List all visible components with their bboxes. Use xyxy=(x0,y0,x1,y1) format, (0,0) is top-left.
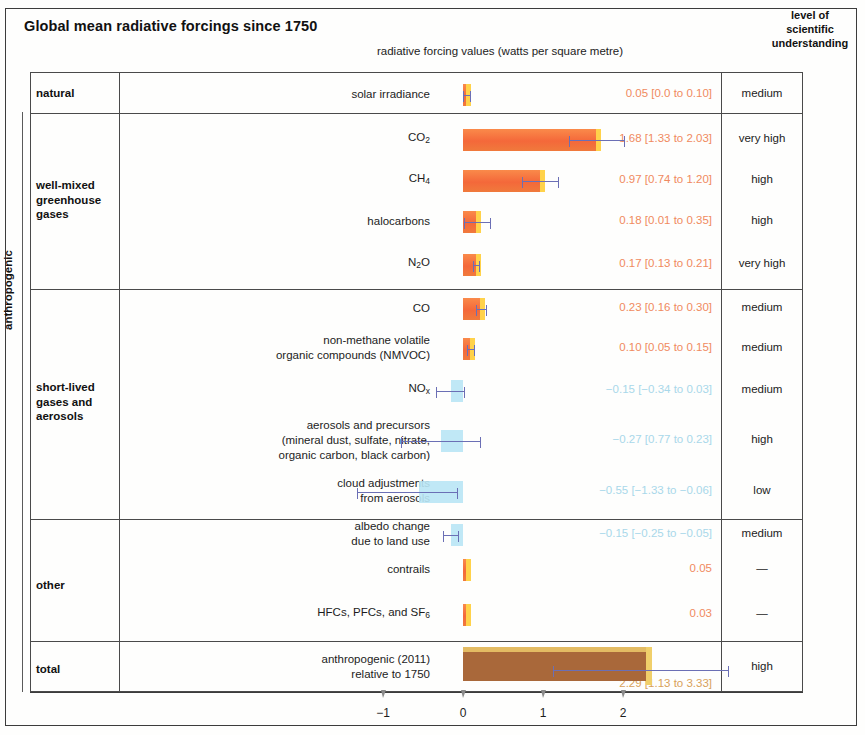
row-value: 0.23 [0.16 to 0.30] xyxy=(500,301,712,313)
x-axis-tick-label: −1 xyxy=(363,706,403,720)
row-value: 0.05 xyxy=(500,562,712,574)
row-name: NOx xyxy=(130,381,430,399)
row-value: −0.15 [−0.34 to 0.03] xyxy=(500,383,712,395)
row-level-of-scientific-understanding: medium xyxy=(724,527,800,539)
row-level-of-scientific-understanding: very high xyxy=(724,132,800,144)
row-value: 0.10 [0.05 to 0.15] xyxy=(500,341,712,353)
row-value: 1.68 [1.33 to 2.03] xyxy=(500,132,712,144)
row-value: −0.27 [0.77 to 0.23] xyxy=(500,433,712,445)
row-level-of-scientific-understanding: medium xyxy=(724,341,800,353)
anthropogenic-bracket-label: anthropogenic xyxy=(2,250,14,330)
lou-header-line-2: scientific xyxy=(760,22,860,36)
group-label-well-mixed-greenhouse-gases: well-mixed greenhouse gases xyxy=(36,178,116,222)
row-level-of-scientific-understanding: very high xyxy=(724,257,800,269)
row-name: halocarbons xyxy=(130,214,430,229)
row-name: HFCs, PFCs, and SF6 xyxy=(130,605,430,623)
table-rule-category xyxy=(119,73,120,691)
anthropogenic-bracket xyxy=(22,112,23,692)
x-axis-tick-label: 0 xyxy=(443,706,483,720)
group-label-total: total xyxy=(36,662,116,677)
row-value: −0.55 [−1.33 to −0.06] xyxy=(500,484,712,496)
row-value: 0.03 xyxy=(500,607,712,619)
table-rule-lou xyxy=(721,73,722,691)
table-rule-wmgg-bottom xyxy=(31,289,802,290)
group-label-natural: natural xyxy=(36,86,116,101)
row-level-of-scientific-understanding: high xyxy=(724,173,800,185)
row-value: 2.29 [1.13 to 3.33] xyxy=(500,677,712,689)
row-name: albedo changedue to land use xyxy=(130,519,430,549)
radiative-forcing-figure: Global mean radiative forcings since 175… xyxy=(0,0,865,735)
row-level-of-scientific-understanding: high xyxy=(724,214,800,226)
x-axis-line xyxy=(30,692,803,693)
group-label-other: other xyxy=(36,578,116,593)
row-name: anthropogenic (2011)relative to 1750 xyxy=(130,652,430,682)
row-level-of-scientific-understanding: low xyxy=(724,484,800,496)
row-level-of-scientific-understanding: high xyxy=(724,660,800,672)
row-value: 0.17 [0.13 to 0.21] xyxy=(500,257,712,269)
row-value: 0.05 [0.0 to 0.10] xyxy=(500,87,712,99)
lou-header-line-1: level of xyxy=(760,8,860,22)
row-level-of-scientific-understanding: medium xyxy=(724,301,800,313)
x-axis-tick-label: 2 xyxy=(603,706,643,720)
row-value: −0.15 [−0.25 to −0.05] xyxy=(500,527,712,539)
row-level-of-scientific-understanding: high xyxy=(724,433,800,445)
lou-header-line-3: understanding xyxy=(760,36,860,50)
row-level-of-scientific-understanding: medium xyxy=(724,87,800,99)
row-name: non-methane volatileorganic compounds (N… xyxy=(130,333,430,363)
row-level-of-scientific-understanding: — xyxy=(724,562,800,574)
row-name: CO xyxy=(130,301,430,316)
group-label-short-lived-gases-and-aerosols: short-lived gases and aerosols xyxy=(36,380,116,424)
row-level-of-scientific-understanding: medium xyxy=(724,383,800,395)
column-header-level-of-scientific-understanding: level of scientific understanding xyxy=(760,8,860,50)
row-name: N2O xyxy=(130,255,430,273)
row-value: 0.18 [0.01 to 0.35] xyxy=(500,214,712,226)
row-name: contrails xyxy=(130,562,430,577)
table-rule-natural-bottom xyxy=(31,113,802,114)
row-name: CO2 xyxy=(130,130,430,148)
row-value: 0.97 [0.74 to 1.20] xyxy=(500,173,712,185)
row-name: cloud adjustmentsfrom aerosols xyxy=(130,476,430,506)
axis-caption: radiative forcing values (watts per squa… xyxy=(290,45,710,57)
figure-title: Global mean radiative forcings since 175… xyxy=(24,18,317,34)
table-rule-other-bottom xyxy=(31,641,802,642)
row-level-of-scientific-understanding: — xyxy=(724,607,800,619)
x-axis-tick-label: 1 xyxy=(523,706,563,720)
row-name: aerosols and precursors(mineral dust, su… xyxy=(130,418,430,463)
row-name: CH4 xyxy=(130,171,430,189)
row-name: solar irradiance xyxy=(130,87,430,102)
